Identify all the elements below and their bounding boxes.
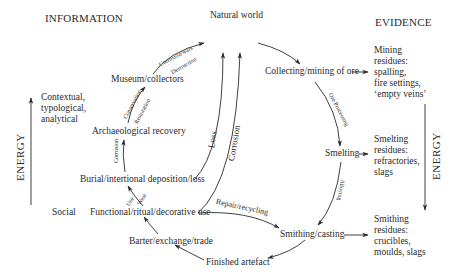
node-finished-artefact: Finished artefact <box>206 257 270 268</box>
node-barter: Barter/exchange/trade <box>129 236 213 247</box>
arrow-natural-to-collecting <box>258 43 300 64</box>
node-collecting-mining: Collecting/mining of ore <box>265 66 359 77</box>
evidence-mining-residues: Mining residues: spalling, fire settings… <box>374 45 427 100</box>
arrow-burial-to-recovery <box>123 140 125 172</box>
edge-label-corrosion-burial: Corrosion <box>113 139 119 163</box>
node-burial: Burial/intertional deposition/loss <box>80 174 205 185</box>
social-label: Social <box>52 207 76 218</box>
arrow-finished-to-barter <box>175 245 204 260</box>
information-header: INFORMATION <box>45 12 123 24</box>
evidence-smelting-residues: Smelting residues: refractories, slags <box>374 134 420 178</box>
energy-right-label: ENERGY <box>430 132 442 180</box>
evidence-header: EVIDENCE <box>375 16 432 28</box>
arrow-ore-processing <box>315 82 340 146</box>
node-smithing-casting: Smithing/casting <box>280 229 344 240</box>
evidence-smithing-residues: Smithing residues: crucibles, moulds, sl… <box>374 214 426 258</box>
arrow-barter-to-use <box>144 217 158 234</box>
contextual-label: Contextual, typological, analytical <box>41 92 86 125</box>
node-natural-world: Natural world <box>210 10 263 21</box>
node-museum-collectors: Museum/collectors <box>111 74 184 85</box>
node-archaeological-recovery: Archaeological recovery <box>92 126 186 137</box>
arrow-smithing-to-finished <box>268 240 305 258</box>
arrow-loss <box>194 53 223 180</box>
node-functional-use: Functional/ritual/decorative use <box>90 207 211 218</box>
energy-left-label: ENERGY <box>14 133 26 181</box>
node-smelting: Smelting <box>325 148 359 159</box>
